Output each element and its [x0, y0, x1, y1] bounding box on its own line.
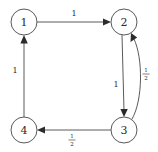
edge-3-to-4-arrowhead [37, 127, 45, 134]
node-2-label: 2 [121, 16, 128, 29]
node-3[interactable]: 3 [111, 117, 137, 143]
edge-3-to-2-arrowhead [131, 33, 138, 42]
edge-1-to-2-arrowhead [103, 19, 111, 26]
graph-canvas: 1 1 1 2 1 2 [0, 0, 158, 152]
edge-4-to-1: 1 [12, 35, 27, 117]
edge-4-to-1-arrowhead [20, 35, 27, 43]
edge-2-to-3-line [122, 35, 124, 111]
edge-1-to-2-weight: 1 [71, 9, 76, 18]
node-2[interactable]: 2 [111, 9, 137, 35]
edge-3-to-4-weight-numerator: 1 [70, 133, 74, 139]
edge-3-to-2-weight: 1 2 [143, 67, 150, 81]
edge-2-to-3: 1 [113, 35, 127, 117]
node-4[interactable]: 4 [11, 117, 37, 143]
edge-3-to-2-weight-numerator: 1 [144, 67, 148, 73]
node-1-label: 1 [21, 16, 28, 29]
edge-3-to-4: 1 2 [37, 127, 111, 147]
edge-3-to-4-weight: 1 2 [69, 133, 76, 147]
edge-3-to-2: 1 2 [131, 33, 150, 119]
node-3-label: 3 [121, 124, 128, 137]
node-1[interactable]: 1 [11, 9, 37, 35]
node-4-label: 4 [21, 124, 28, 137]
edge-2-to-3-arrowhead [120, 109, 127, 117]
directed-graph-figure: 1 1 1 2 1 2 [0, 0, 158, 152]
edge-2-to-3-weight: 1 [113, 80, 118, 89]
edge-1-to-2: 1 [37, 9, 111, 26]
edge-4-to-1-weight: 1 [12, 66, 17, 75]
edge-3-to-2-weight-denominator: 2 [144, 75, 148, 81]
edge-3-to-2-curve [132, 39, 141, 119]
edge-3-to-4-weight-denominator: 2 [70, 141, 74, 147]
